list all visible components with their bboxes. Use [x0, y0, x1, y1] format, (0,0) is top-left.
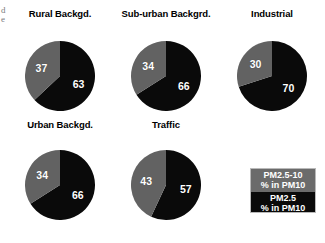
- pie-graphic-suburban-background: 6634: [131, 41, 201, 111]
- legend-coarse-line-1: PM2.5-10: [256, 170, 310, 180]
- legend-fine-line-2: % in PM10: [256, 203, 310, 213]
- legend: PM2.5-10 % in PM10 PM2.5 % in PM10: [250, 168, 316, 213]
- pie-graphic-traffic: 5743: [131, 150, 201, 220]
- pie-title-urban-background: Urban Backgd.: [27, 119, 93, 130]
- pie-title-rural-background: Rural Backgd.: [29, 8, 92, 19]
- pie-title-suburban-background: Sub-urban Backgrd.: [122, 8, 211, 19]
- legend-coarse-line-2: % in PM10: [256, 180, 310, 190]
- pie-value-label-fine: 57: [180, 183, 192, 195]
- pie-value-label-fine: 63: [73, 78, 85, 90]
- legend-entry-fine: PM2.5 % in PM10: [251, 192, 315, 213]
- pie-title-industrial: Industrial: [251, 8, 293, 19]
- pie-value-label-coarse: 43: [140, 175, 152, 187]
- pie-value-label-coarse: 34: [36, 169, 48, 181]
- pie-value-label-fine: 66: [178, 80, 190, 92]
- pie-graphic-urban-background: 6634: [25, 150, 95, 220]
- pie-title-traffic: Traffic: [152, 119, 180, 130]
- pie-graphic-rural-background: 6337: [25, 41, 95, 111]
- legend-fine-line-1: PM2.5: [256, 193, 310, 203]
- legend-entry-coarse: PM2.5-10 % in PM10: [251, 169, 315, 192]
- pie-value-label-coarse: 37: [36, 62, 48, 74]
- pie-value-label-coarse: 34: [142, 60, 154, 72]
- pie-graphic-industrial: 7030: [237, 41, 307, 111]
- pie-value-label-fine: 70: [283, 82, 295, 94]
- pie-chart-figure: d e Rural Backgd. 6337 Sub-urban Backgrd…: [0, 0, 325, 243]
- pie-value-label-fine: 66: [72, 189, 84, 201]
- edge-caption-fragment-2: e: [1, 15, 5, 24]
- pie-value-label-coarse: 30: [250, 58, 262, 70]
